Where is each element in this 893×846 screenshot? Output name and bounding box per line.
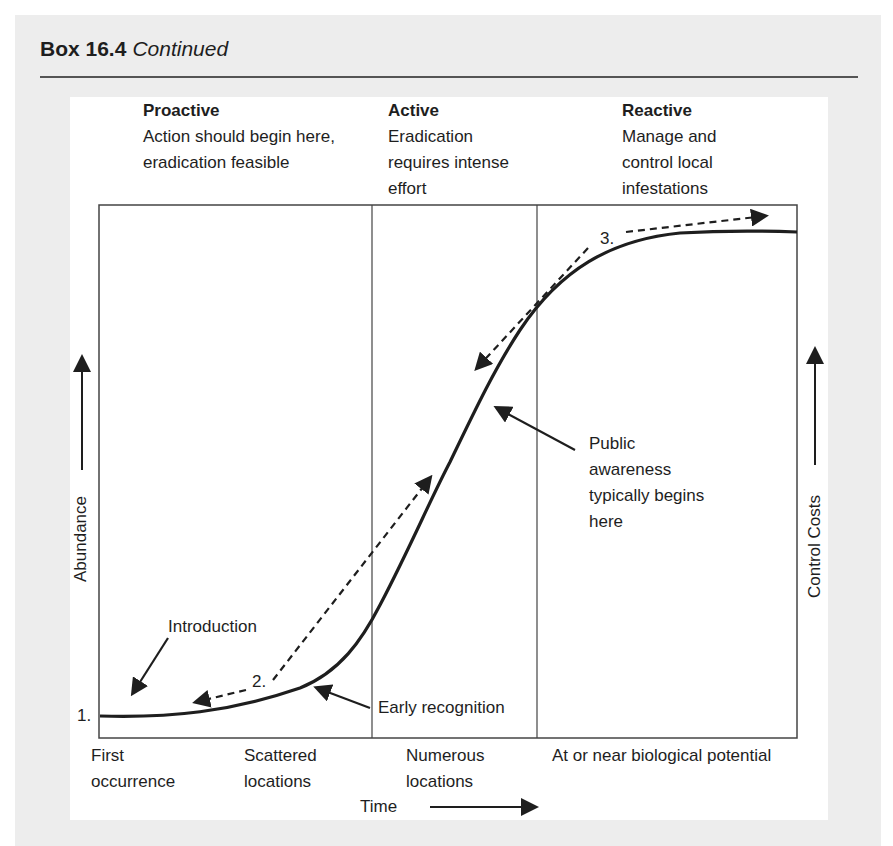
public-awareness-line: awareness: [589, 457, 671, 483]
public-awareness-arrow: [497, 408, 575, 450]
dashed-arrow-2-back: [196, 690, 246, 702]
introduction-arrow: [133, 638, 168, 693]
introduction-label: Introduction: [168, 614, 257, 640]
abundance-curve: [100, 231, 797, 716]
point-3-label: 3.: [600, 226, 614, 252]
stage-numerous: Numerous: [406, 743, 484, 769]
y-axis-left-label: Abundance: [71, 496, 91, 582]
stage-first-occurrence: First: [91, 743, 124, 769]
y-axis-right-label: Control Costs: [805, 495, 825, 598]
x-axis-label: Time: [360, 794, 397, 820]
plot-frame: [99, 205, 797, 738]
stage-first-occurrence: occurrence: [91, 769, 175, 795]
early-recognition-label: Early recognition: [378, 695, 505, 721]
stage-scattered: locations: [244, 769, 311, 795]
public-awareness-line: typically begins: [589, 483, 704, 509]
public-awareness-line: here: [589, 509, 623, 535]
public-awareness-line: Public: [589, 431, 635, 457]
dashed-arrow-3-back: [477, 248, 588, 368]
point-1-label: 1.: [77, 703, 91, 729]
stage-biological-potential: At or near biological potential: [552, 743, 771, 769]
point-2-label: 2.: [252, 669, 266, 695]
early-recognition-arrow: [317, 688, 370, 708]
stage-numerous: locations: [406, 769, 473, 795]
stage-scattered: Scattered: [244, 743, 317, 769]
